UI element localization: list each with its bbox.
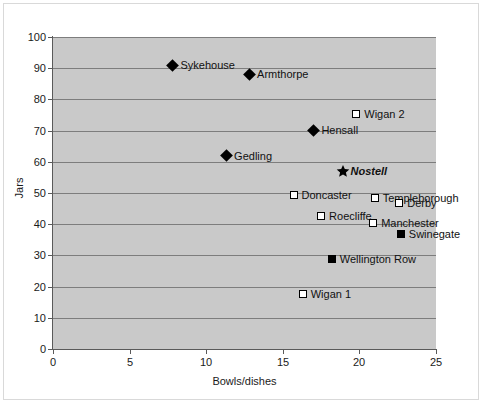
x-tick-mark-25 bbox=[436, 350, 437, 354]
y-axis-title: Jars bbox=[13, 158, 25, 218]
gridline-y-10 bbox=[53, 318, 436, 319]
gridline-y-40 bbox=[53, 224, 436, 225]
marker-diamond-icon bbox=[166, 59, 179, 72]
y-tick-label-20: 20 bbox=[2, 282, 46, 293]
y-tick-100: 100 bbox=[0, 32, 46, 43]
marker-diamond-icon bbox=[220, 149, 233, 162]
x-tick-label-5: 5 bbox=[110, 357, 150, 368]
y-tick-0: 0 bbox=[0, 344, 46, 355]
data-point-label: Doncaster bbox=[302, 190, 352, 201]
x-tick-label-25: 25 bbox=[416, 357, 456, 368]
y-tick-label-90: 90 bbox=[2, 63, 46, 74]
y-tick-10: 10 bbox=[0, 313, 46, 324]
marker-square-open-icon bbox=[299, 290, 307, 298]
marker-square-open-icon bbox=[395, 199, 403, 207]
gridline-y-70 bbox=[53, 131, 436, 132]
y-tick-mark-10 bbox=[48, 318, 52, 319]
marker-star-icon bbox=[336, 164, 350, 178]
data-point-label: Hensall bbox=[321, 125, 358, 136]
y-tick-mark-100 bbox=[48, 37, 52, 38]
data-point-label: Derby bbox=[407, 198, 436, 209]
data-point-label: Wellington Row bbox=[340, 254, 416, 265]
data-point-label: Roecliffe bbox=[329, 211, 372, 222]
x-tick-label-10: 10 bbox=[186, 357, 226, 368]
y-tick-label-80: 80 bbox=[2, 94, 46, 105]
x-tick-label-20: 20 bbox=[339, 357, 379, 368]
y-tick-label-30: 30 bbox=[2, 250, 46, 261]
scatter-chart-figure: SykehouseArmthorpeWigan 2HensallGedlingN… bbox=[0, 0, 482, 403]
y-tick-mark-70 bbox=[48, 131, 52, 132]
gridline-y-100 bbox=[53, 37, 436, 38]
marker-square-open-icon bbox=[371, 194, 379, 202]
x-tick-mark-5 bbox=[130, 350, 131, 354]
y-tick-mark-0 bbox=[48, 349, 52, 350]
y-tick-label-70: 70 bbox=[2, 126, 46, 137]
marker-square-filled-icon bbox=[397, 230, 405, 238]
data-point-label: Wigan 1 bbox=[311, 289, 351, 300]
y-tick-mark-80 bbox=[48, 99, 52, 100]
data-point-label: Manchester bbox=[381, 218, 438, 229]
y-tick-30: 30 bbox=[0, 250, 46, 261]
y-tick-label-100: 100 bbox=[2, 32, 46, 43]
gridline-y-60 bbox=[53, 162, 436, 163]
y-tick-label-10: 10 bbox=[2, 313, 46, 324]
marker-square-filled-icon bbox=[328, 255, 336, 263]
gridline-y-80 bbox=[53, 99, 436, 100]
y-tick-40: 40 bbox=[0, 219, 46, 230]
x-tick-mark-10 bbox=[206, 350, 207, 354]
y-tick-mark-20 bbox=[48, 287, 52, 288]
marker-square-open-icon bbox=[369, 219, 377, 227]
y-tick-mark-30 bbox=[48, 255, 52, 256]
y-tick-70: 70 bbox=[0, 126, 46, 137]
plot-area: SykehouseArmthorpeWigan 2HensallGedlingN… bbox=[53, 37, 436, 349]
data-point-label: Sykehouse bbox=[181, 60, 235, 71]
y-tick-label-40: 40 bbox=[2, 219, 46, 230]
x-axis-title: Bowls/dishes bbox=[53, 375, 436, 387]
y-tick-80: 80 bbox=[0, 94, 46, 105]
y-axis-line bbox=[52, 36, 53, 350]
y-tick-20: 20 bbox=[0, 282, 46, 293]
gridline-y-20 bbox=[53, 287, 436, 288]
marker-square-open-icon bbox=[317, 212, 325, 220]
y-tick-mark-60 bbox=[48, 162, 52, 163]
data-point-label: Nostell bbox=[351, 166, 388, 177]
marker-diamond-icon bbox=[307, 124, 320, 137]
y-tick-label-0: 0 bbox=[2, 344, 46, 355]
data-point-label: Wigan 2 bbox=[364, 109, 404, 120]
data-point-label: Gedling bbox=[234, 151, 272, 162]
marker-square-open-icon bbox=[352, 110, 360, 118]
y-tick-mark-90 bbox=[48, 68, 52, 69]
x-tick-mark-0 bbox=[53, 350, 54, 354]
x-tick-label-15: 15 bbox=[263, 357, 303, 368]
data-point-label: Swinegate bbox=[409, 229, 460, 240]
x-tick-mark-15 bbox=[283, 350, 284, 354]
y-tick-mark-40 bbox=[48, 224, 52, 225]
y-tick-mark-50 bbox=[48, 193, 52, 194]
y-tick-90: 90 bbox=[0, 63, 46, 74]
data-point-label: Armthorpe bbox=[257, 69, 308, 80]
marker-square-open-icon bbox=[290, 191, 298, 199]
marker-diamond-icon bbox=[243, 68, 256, 81]
gridline-y-90 bbox=[53, 68, 436, 69]
x-axis-line bbox=[52, 349, 437, 350]
x-tick-mark-20 bbox=[359, 350, 360, 354]
x-tick-label-0: 0 bbox=[33, 357, 73, 368]
